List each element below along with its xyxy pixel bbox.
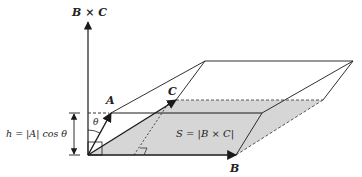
- vector-b-label: B: [229, 162, 239, 175]
- vector-a-label: A: [105, 94, 115, 107]
- base-area-label: S = |B × C|: [176, 128, 234, 140]
- cross-product-label: B × C: [71, 6, 107, 19]
- height-formula-label: h = |A| cos θ: [6, 128, 67, 140]
- theta-arc: [88, 130, 100, 133]
- edge-bc-to-abc: [323, 61, 353, 100]
- vector-c-label: C: [168, 85, 177, 98]
- parallelepiped-diagram: B × C A B C θ h = |A| cos θ S = |B × C|: [0, 0, 362, 177]
- edge-c-to-ac: [176, 61, 205, 100]
- theta-label: θ: [93, 117, 99, 127]
